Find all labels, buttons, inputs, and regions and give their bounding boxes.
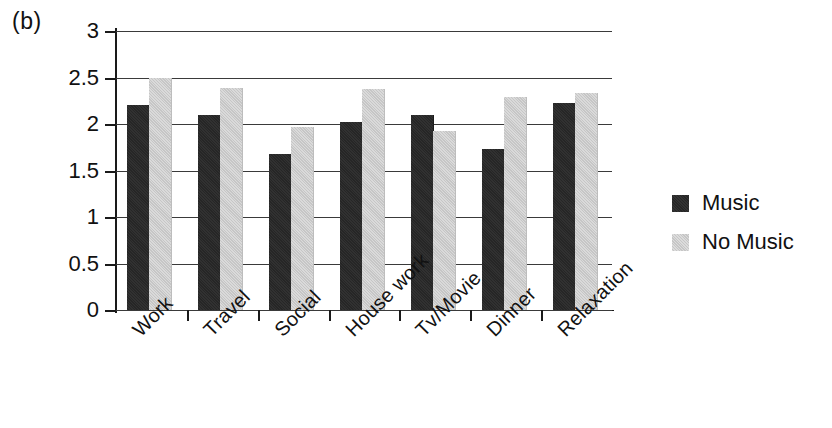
y-tick-label: 1 [87,206,99,228]
bar-no-music-social [291,127,314,310]
y-tick-mark [105,310,116,312]
x-tick-mark [470,310,472,321]
x-tick-mark [399,310,401,321]
figure-panel-b: (b) 00.511.522.53 WorkTravelSocialHouse … [0,0,832,428]
bar-music-social [269,154,292,310]
legend-label-music: Music [702,192,759,214]
bar-no-music-dinner [504,97,527,310]
bar-music-relaxation [553,103,576,310]
y-tick-mark [105,217,116,219]
y-tick-label: 2 [87,113,99,135]
y-tick-label: 1.5 [68,160,99,182]
y-axis-tick-labels: 00.511.522.53 [0,0,99,428]
x-tick-mark [329,310,331,321]
bar-music-dinner [482,149,505,310]
bar-no-music-house-work [362,89,385,310]
bar-music-travel [198,115,221,310]
y-tick-mark [105,31,116,33]
legend-label-no-music: No Music [702,231,794,253]
y-tick-mark [105,171,116,173]
y-tick-mark [105,78,116,80]
gridline [116,78,612,79]
bar-no-music-relaxation [575,93,598,310]
legend-item-music: Music [672,192,822,214]
legend: Music No Music [672,192,822,270]
gridline [116,31,612,32]
plot-area [116,31,612,310]
bar-music-work [127,105,150,310]
bar-no-music-travel [220,88,243,310]
y-tick-label: 0 [87,299,99,321]
legend-swatch-music-icon [672,195,689,212]
y-tick-label: 3 [87,20,99,42]
legend-item-no-music: No Music [672,231,822,253]
legend-swatch-no-music-icon [672,234,689,251]
y-tick-mark [105,124,116,126]
x-tick-mark [258,310,260,321]
bar-no-music-work [149,78,172,311]
x-tick-mark [187,310,189,321]
x-tick-mark [541,310,543,321]
y-tick-label: 2.5 [68,67,99,89]
y-tick-mark [105,264,116,266]
y-tick-label: 0.5 [68,253,99,275]
bar-music-house-work [340,122,363,310]
